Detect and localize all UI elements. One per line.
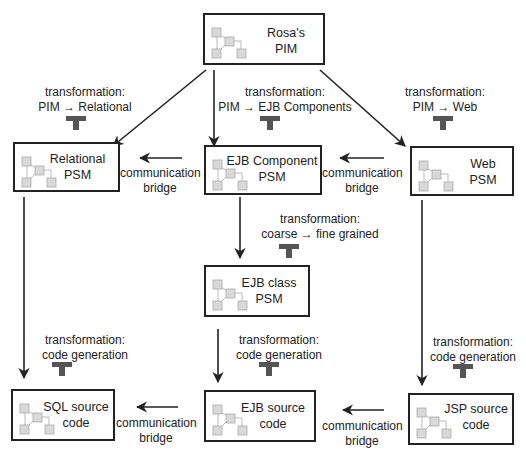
bridge-ejb-to-relational: communicationbridge <box>120 166 200 196</box>
transformation-codegen-ejb: transformation:code generation <box>224 333 334 363</box>
node-web-psm: WebPSM <box>410 146 514 196</box>
model-diagram-icon <box>418 160 454 192</box>
transformation-codegen-sql: transformation:code generation <box>30 333 140 363</box>
bridge-jsp-to-ejb: communicationbridge <box>322 419 402 449</box>
transformation-tool-icon <box>66 116 86 130</box>
node-label-line1: Relational <box>41 151 114 167</box>
node-label-line2: PIM <box>253 41 319 57</box>
transformation-tool-icon <box>453 364 473 378</box>
node-label-line2: code <box>442 417 510 433</box>
node-ejb-source-code: EJB sourcecode <box>204 390 316 442</box>
transformation-label: transformation: <box>30 85 140 100</box>
transformation-label: transformation: <box>215 85 355 100</box>
transformation-tool-icon <box>259 362 279 376</box>
node-label-line2: PSM <box>458 172 508 188</box>
transformation-codegen-jsp: transformation:code generation <box>418 335 526 365</box>
bridge-label: communication <box>322 419 402 434</box>
bridge-label-2: bridge <box>322 181 402 196</box>
transformation-detail: code generation <box>418 350 526 365</box>
node-label-line1: EJB Component <box>226 153 318 169</box>
bridge-label-2: bridge <box>116 431 196 446</box>
bridge-label-2: bridge <box>120 181 200 196</box>
node-label-line2: PSM <box>234 291 304 307</box>
transformation-label: transformation: <box>418 335 526 350</box>
transformation-pim-relational: transformation:PIM → Relational <box>30 85 140 115</box>
node-label-line1: Rosa's <box>253 25 319 41</box>
bridge-label-2: bridge <box>322 434 402 449</box>
model-diagram-icon <box>211 27 247 59</box>
node-ejb-component-psm: EJB ComponentPSM <box>204 145 322 195</box>
transformation-tool-icon <box>279 244 299 258</box>
transformation-detail: coarse → fine grained <box>250 227 390 242</box>
bridge-web-to-ejb: communicationbridge <box>322 166 402 196</box>
transformation-label: transformation: <box>30 333 140 348</box>
transformation-label: transformation: <box>224 333 334 348</box>
transformation-detail: PIM → Web <box>390 100 500 115</box>
bridge-label: communication <box>322 166 402 181</box>
node-label-line1: Web <box>458 156 508 172</box>
node-jsp-source-code: JSP sourcecode <box>408 393 514 445</box>
transformation-tool-icon <box>52 362 72 376</box>
node-sql-source-code: SQL sourcecode <box>11 389 115 441</box>
transformation-detail: PIM → Relational <box>30 100 140 115</box>
node-label-line1: EJB source <box>234 400 312 416</box>
transformation-detail: PIM → EJB Components <box>215 100 355 115</box>
transformation-tool-icon <box>260 116 280 130</box>
bridge-label: communication <box>120 166 200 181</box>
transformation-coarse-fine: transformation:coarse → fine grained <box>250 212 390 242</box>
node-label-line2: code <box>41 415 111 431</box>
bridge-ejb-to-sql: communicationbridge <box>116 416 196 446</box>
node-label-line1: EJB class <box>234 275 304 291</box>
transformation-label: transformation: <box>250 212 390 227</box>
node-label-line1: SQL source <box>41 399 111 415</box>
node-label-line2: PSM <box>41 167 114 183</box>
bridge-label: communication <box>116 416 196 431</box>
node-rosas-pim: Rosa'sPIM <box>203 13 325 65</box>
node-relational-psm: RelationalPSM <box>13 142 120 192</box>
node-label-line2: PSM <box>226 169 318 185</box>
transformation-detail: code generation <box>224 348 334 363</box>
transformation-detail: code generation <box>30 348 140 363</box>
node-label-line2: code <box>234 416 312 432</box>
transformation-label: transformation: <box>390 85 500 100</box>
node-label-line1: JSP source <box>442 401 510 417</box>
transformation-pim-ejb: transformation:PIM → EJB Components <box>215 85 355 115</box>
node-ejb-class-psm: EJB classPSM <box>204 265 310 317</box>
transformation-tool-icon <box>433 116 453 130</box>
transformation-pim-web: transformation:PIM → Web <box>390 85 500 115</box>
